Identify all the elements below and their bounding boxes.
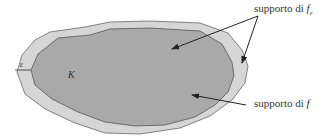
label-text: supporto di: [254, 97, 307, 109]
label-support-f-eps: supporto di fε: [254, 2, 312, 17]
label-sub: ε: [310, 9, 313, 17]
label-support-f: supporto di f: [254, 97, 310, 109]
label-var: f: [307, 97, 310, 109]
label-text: supporto di: [254, 2, 307, 14]
support-diagram: [0, 0, 331, 139]
arrow-to-outer: [242, 16, 258, 63]
label-epsilon: ε: [20, 60, 23, 69]
label-set-K: K: [68, 69, 75, 80]
